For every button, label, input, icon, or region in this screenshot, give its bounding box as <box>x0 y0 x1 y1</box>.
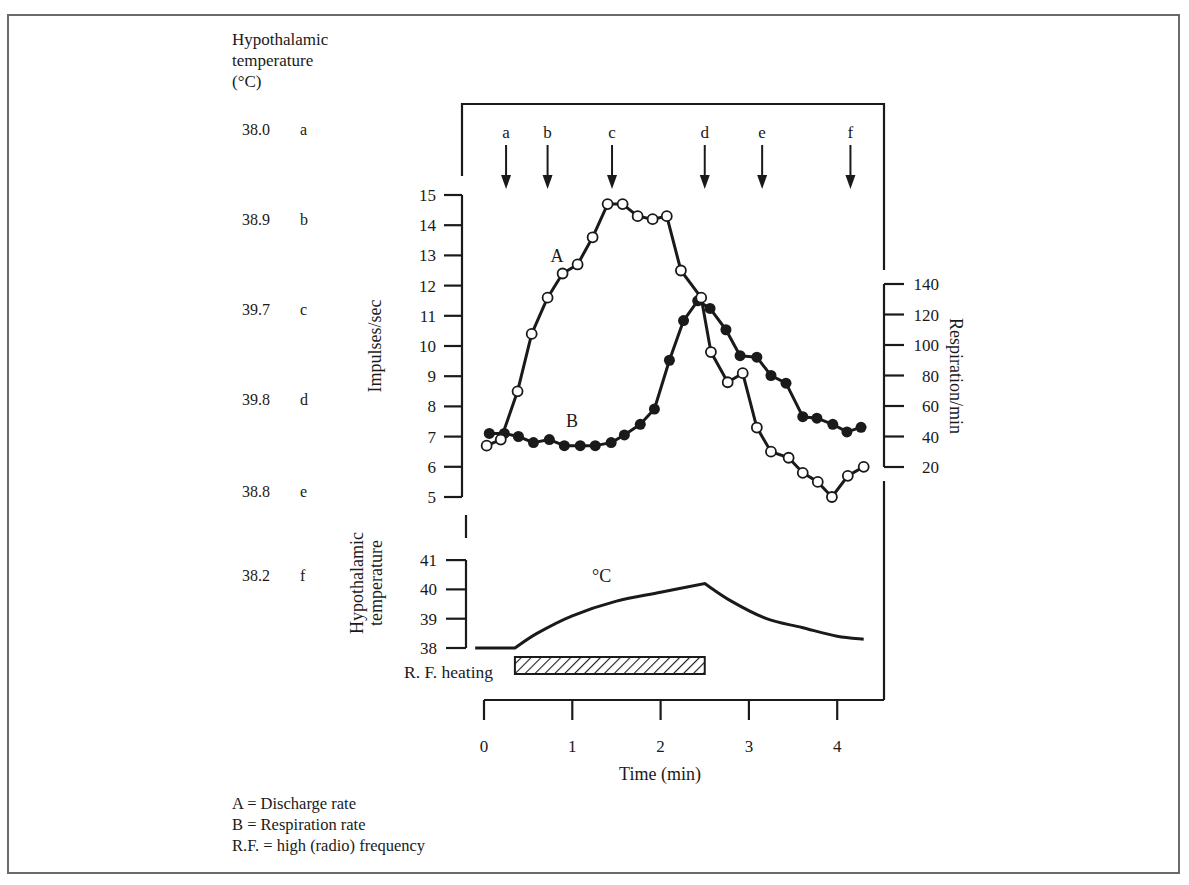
series-a-point <box>696 293 706 303</box>
series-a-point <box>738 368 748 378</box>
event-marker-label: f <box>848 123 854 142</box>
respiration-tick-label: 120 <box>914 306 940 325</box>
series-a-point <box>813 477 823 487</box>
temperature-tick-label: 40 <box>420 580 437 599</box>
temperature-axis-title-2: temperature <box>366 540 386 626</box>
arrow-head-icon <box>700 175 710 189</box>
x-tick-label: 1 <box>568 737 577 756</box>
arrow-head-icon <box>543 175 553 189</box>
series-a-label: A <box>551 246 564 266</box>
series-b-point <box>797 411 808 422</box>
impulses-tick-label: 14 <box>419 216 437 235</box>
series-a-point <box>603 199 613 209</box>
series-b-point <box>606 437 617 448</box>
series-a-point <box>752 423 762 433</box>
series-b-point <box>856 422 867 433</box>
series-a-point <box>618 199 628 209</box>
event-marker-label: b <box>543 123 552 142</box>
series-a-point <box>527 329 537 339</box>
series-b-point <box>649 404 660 415</box>
impulses-tick-label: 7 <box>428 428 437 447</box>
temperature-unit-label: °C <box>592 566 611 586</box>
series-b-point <box>619 429 630 440</box>
arrow-head-icon <box>845 175 855 189</box>
series-a-point <box>676 266 686 276</box>
series-a-point <box>633 211 643 221</box>
series-a-point <box>766 447 776 457</box>
series-b-point <box>841 426 852 437</box>
impulses-tick-label: 11 <box>420 307 436 326</box>
series-a-point <box>496 435 506 445</box>
respiration-tick-label: 100 <box>914 336 940 355</box>
impulses-tick-label: 9 <box>428 367 437 386</box>
series-b-label: B <box>566 411 578 431</box>
series-a-point <box>723 377 733 387</box>
series-a-point <box>798 468 808 478</box>
series-b-point <box>544 434 555 445</box>
series-b-point <box>590 440 601 451</box>
event-marker-label: a <box>502 123 510 142</box>
series-b-point <box>811 413 822 424</box>
series-b-point <box>513 431 524 442</box>
series-a-point <box>662 211 672 221</box>
series-a-point <box>558 269 568 279</box>
series-a-point <box>543 293 553 303</box>
series-b-line <box>489 301 861 446</box>
series-b-point <box>559 440 570 451</box>
series-b-point <box>827 419 838 430</box>
respiration-tick-label: 80 <box>922 367 939 386</box>
temperature-axis-title-1: Hypothalamic <box>347 532 367 634</box>
series-b-point <box>780 378 791 389</box>
series-b-point <box>735 350 746 361</box>
rf-heating-label: R. F. heating <box>404 662 493 682</box>
series-a-point <box>843 471 853 481</box>
impulses-tick-label: 12 <box>419 277 436 296</box>
series-b-point <box>484 428 495 439</box>
arrow-head-icon <box>757 175 767 189</box>
chart-canvas: 56789101112131415Impulses/sec20406080100… <box>0 0 1189 885</box>
series-b-point <box>720 324 731 335</box>
impulses-tick-label: 13 <box>419 246 436 265</box>
event-marker-label: d <box>701 123 710 142</box>
respiration-tick-label: 20 <box>922 458 939 477</box>
impulses-tick-label: 8 <box>428 397 437 416</box>
series-a-point <box>648 214 658 224</box>
temperature-curve <box>475 584 864 648</box>
impulses-tick-label: 6 <box>428 458 437 477</box>
x-tick-label: 2 <box>656 737 665 756</box>
legend-item-b: B = Respiration rate <box>232 814 425 835</box>
impulses-axis-title: Impulses/sec <box>365 300 385 393</box>
series-b-point <box>751 352 762 363</box>
temperature-tick-label: 41 <box>420 551 437 570</box>
series-b-point <box>575 440 586 451</box>
series-a-line <box>487 204 864 497</box>
x-tick-label: 3 <box>745 737 754 756</box>
event-marker-label: c <box>608 123 616 142</box>
arrow-head-icon <box>501 175 511 189</box>
series-b-point <box>664 355 675 366</box>
series-a-point <box>573 259 583 269</box>
series-b-point <box>765 370 776 381</box>
impulses-tick-label: 10 <box>419 337 436 356</box>
x-tick-label: 0 <box>480 737 489 756</box>
legend-item-rf: R.F. = high (radio) frequency <box>232 835 425 856</box>
arrow-head-icon <box>607 175 617 189</box>
series-b-point <box>705 303 716 314</box>
rf-heating-bar <box>515 657 705 674</box>
impulses-tick-label: 15 <box>419 186 436 205</box>
series-a-point <box>482 441 492 451</box>
respiration-tick-label: 60 <box>922 397 939 416</box>
series-b-point <box>635 419 646 430</box>
legend: A = Discharge rate B = Respiration rate … <box>232 793 425 856</box>
impulses-tick-label: 5 <box>428 488 437 507</box>
legend-item-a: A = Discharge rate <box>232 793 425 814</box>
series-a-point <box>827 492 837 502</box>
x-tick-label: 4 <box>833 737 842 756</box>
series-a-point <box>784 453 794 463</box>
temperature-tick-label: 39 <box>420 610 437 629</box>
series-b-point <box>528 437 539 448</box>
temperature-tick-label: 38 <box>420 639 437 658</box>
series-a-point <box>706 347 716 357</box>
respiration-tick-label: 40 <box>922 428 939 447</box>
series-b-point <box>678 315 689 326</box>
